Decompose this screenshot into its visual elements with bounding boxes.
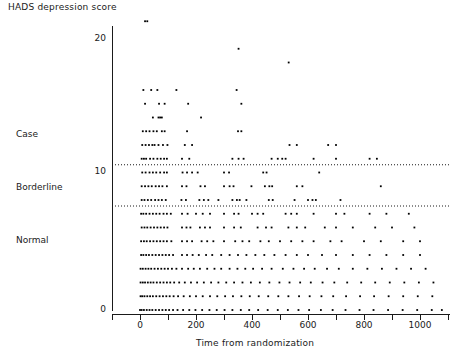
data-point [233,282,235,284]
data-point [321,254,323,256]
data-point [154,268,156,270]
data-point [313,213,315,215]
data-point [274,254,276,256]
data-point [158,144,160,146]
data-point [335,213,337,215]
data-point [154,144,156,146]
data-point [322,282,324,284]
data-point [332,295,334,297]
data-point [268,240,270,242]
scatter-plot-figure: HADS depression score Time from randomiz… [0,0,457,361]
data-point [373,309,375,311]
data-point [402,254,404,256]
data-point [338,268,340,270]
data-point [163,227,165,229]
data-point [417,295,419,297]
data-point [333,282,335,284]
data-point [153,227,155,229]
data-point [216,295,218,297]
data-point [145,268,147,270]
data-point [141,295,143,297]
data-point [144,103,146,105]
data-point [185,199,187,201]
data-point [142,254,144,256]
data-point [288,62,290,64]
data-point [166,282,168,284]
data-point [279,282,281,284]
data-point [140,240,142,242]
data-point [344,213,346,215]
data-point [163,240,165,242]
data-point [156,158,158,160]
data-point [360,282,362,284]
data-point [177,309,179,311]
data-point [150,89,152,91]
data-point [150,227,152,229]
data-point [202,295,204,297]
data-point [238,213,240,215]
data-point [220,254,222,256]
data-point [169,282,171,284]
data-point [327,144,329,146]
data-point [191,144,193,146]
data-point [324,227,326,229]
data-point [191,240,193,242]
data-point [212,240,214,242]
data-point [165,309,167,311]
data-point [232,199,234,201]
data-point [195,309,197,311]
data-point [302,240,304,242]
data-point [144,295,146,297]
data-point [176,89,178,91]
data-point [232,158,234,160]
data-point [156,282,158,284]
data-point [149,295,151,297]
data-point [250,282,252,284]
data-point [165,199,167,201]
data-point [172,309,174,311]
data-point [171,268,173,270]
data-point [402,240,404,242]
data-point [181,254,183,256]
data-point [381,268,383,270]
data-point [314,268,316,270]
data-point [163,282,165,284]
data-point [159,295,161,297]
data-point [148,268,150,270]
data-point [144,185,146,187]
data-point [166,240,168,242]
data-point [146,20,148,22]
data-point [233,185,235,187]
data-point [193,268,195,270]
data-point [159,282,161,284]
data-point [266,172,268,174]
data-point [145,130,147,132]
data-point [419,240,421,242]
data-point [304,227,306,229]
data-point [160,268,162,270]
data-point [173,282,175,284]
data-point [159,172,161,174]
data-point [289,144,291,146]
data-point [184,144,186,146]
data-point [330,240,332,242]
data-point [302,185,304,187]
data-point [187,213,189,215]
data-point [148,185,150,187]
data-point [257,213,259,215]
data-point [318,172,320,174]
data-point [158,199,160,201]
data-point [294,199,296,201]
data-point [248,240,250,242]
data-point [144,282,146,284]
data-point [290,240,292,242]
data-point [184,282,186,284]
data-point [158,254,160,256]
data-point [223,185,225,187]
data-point [155,295,157,297]
data-point [296,213,298,215]
data-point [268,282,270,284]
data-point [143,158,145,160]
data-point [192,254,194,256]
data-point [402,295,404,297]
